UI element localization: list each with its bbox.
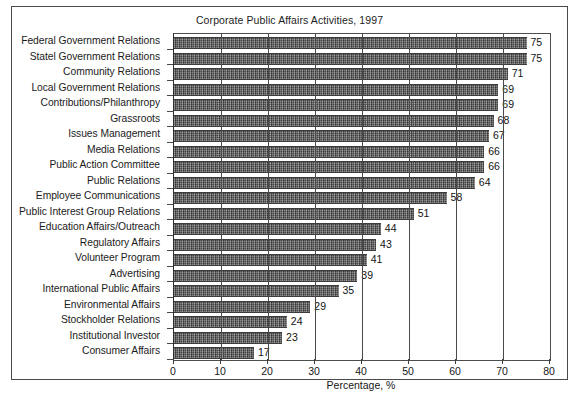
bar-value-label: 39 [361, 268, 373, 282]
bar [174, 347, 254, 359]
category-label: Regulatory Affairs [80, 236, 160, 249]
category-label: Employee Communications [36, 189, 160, 202]
chart-title: Corporate Public Affairs Activities, 199… [12, 14, 567, 26]
category-label: Stockholder Relations [61, 313, 160, 326]
category-label: Issues Management [68, 127, 160, 140]
gridline [268, 34, 269, 360]
bar-value-label: 43 [380, 237, 392, 251]
plot-area: 7575716969686766666458514443413935292423… [173, 33, 551, 361]
bar-value-label: 23 [286, 330, 298, 344]
bar-value-label: 66 [488, 159, 500, 173]
bar-value-label: 29 [314, 299, 326, 313]
category-label: Education Affairs/Outreach [39, 220, 160, 233]
x-axis-tick-label: 60 [449, 365, 461, 378]
category-label: Public Relations [87, 174, 160, 187]
bar [174, 208, 414, 220]
bar-value-label: 24 [291, 314, 303, 328]
x-axis-tick-label: 50 [402, 365, 414, 378]
bar [174, 37, 527, 49]
x-axis-tick-label: 0 [170, 365, 176, 378]
bar [174, 254, 367, 266]
x-axis-tick-label: 80 [543, 365, 555, 378]
category-label: Public Action Committee [50, 158, 160, 171]
bar [174, 239, 376, 251]
bar [174, 332, 282, 344]
x-axis-tick [502, 359, 503, 364]
bar [174, 223, 381, 235]
bar [174, 177, 475, 189]
category-label: International Public Affairs [43, 282, 160, 295]
x-axis-tick [173, 359, 174, 364]
x-axis-tick-label: 70 [496, 365, 508, 378]
x-axis-tick-label: 30 [308, 365, 320, 378]
x-axis-tick [408, 359, 409, 364]
category-label: Institutional Investor [70, 329, 160, 342]
x-axis-tick [267, 359, 268, 364]
bar-value-label: 69 [502, 97, 514, 111]
category-label: Community Relations [63, 65, 160, 78]
category-label: Grassroots [110, 112, 160, 125]
bar-value-label: 66 [488, 144, 500, 158]
x-axis-tick-label: 20 [261, 365, 273, 378]
category-label: Statel Government Relations [30, 50, 160, 63]
category-label: Environmental Affairs [64, 298, 160, 311]
bar [174, 68, 508, 80]
gridline [362, 34, 363, 360]
x-axis-tick-label: 40 [355, 365, 367, 378]
category-axis: Federal Government RelationsStatel Gover… [12, 33, 169, 359]
category-label: Public Interest Group Relations [19, 205, 160, 218]
x-axis-tick [455, 359, 456, 364]
bar-value-label: 35 [343, 283, 355, 297]
bar [174, 270, 357, 282]
category-label: Federal Government Relations [21, 34, 160, 47]
x-axis-tick [549, 359, 550, 364]
bar [174, 316, 287, 328]
bar-value-label: 41 [371, 252, 383, 266]
category-label: Volunteer Program [75, 251, 160, 264]
bar [174, 285, 339, 297]
x-axis-tick [220, 359, 221, 364]
bar [174, 301, 310, 313]
bar [174, 84, 498, 96]
category-label: Contributions/Philanthropy [41, 96, 160, 109]
bar-value-label: 71 [512, 66, 524, 80]
gridline [503, 34, 504, 360]
figure-frame: Corporate Public Affairs Activities, 199… [11, 6, 568, 380]
gridline [315, 34, 316, 360]
bar-value-label: 69 [502, 82, 514, 96]
bar-value-label: 75 [531, 51, 543, 65]
gridline [221, 34, 222, 360]
category-label: Advertising [110, 267, 160, 280]
bar [174, 99, 498, 111]
x-axis-tick [314, 359, 315, 364]
x-axis-title: Percentage, % [173, 379, 549, 391]
bar-value-label: 75 [531, 35, 543, 49]
bar [174, 192, 447, 204]
bar-value-label: 64 [479, 175, 491, 189]
x-axis-tick-label: 10 [214, 365, 226, 378]
bar [174, 53, 527, 65]
bar-value-label: 44 [385, 221, 397, 235]
bar-value-label: 51 [418, 206, 430, 220]
x-axis-tick [361, 359, 362, 364]
gridline [409, 34, 410, 360]
category-label: Media Relations [87, 143, 160, 156]
category-label: Local Government Relations [31, 81, 160, 94]
gridline [456, 34, 457, 360]
category-label: Consumer Affairs [82, 344, 160, 357]
